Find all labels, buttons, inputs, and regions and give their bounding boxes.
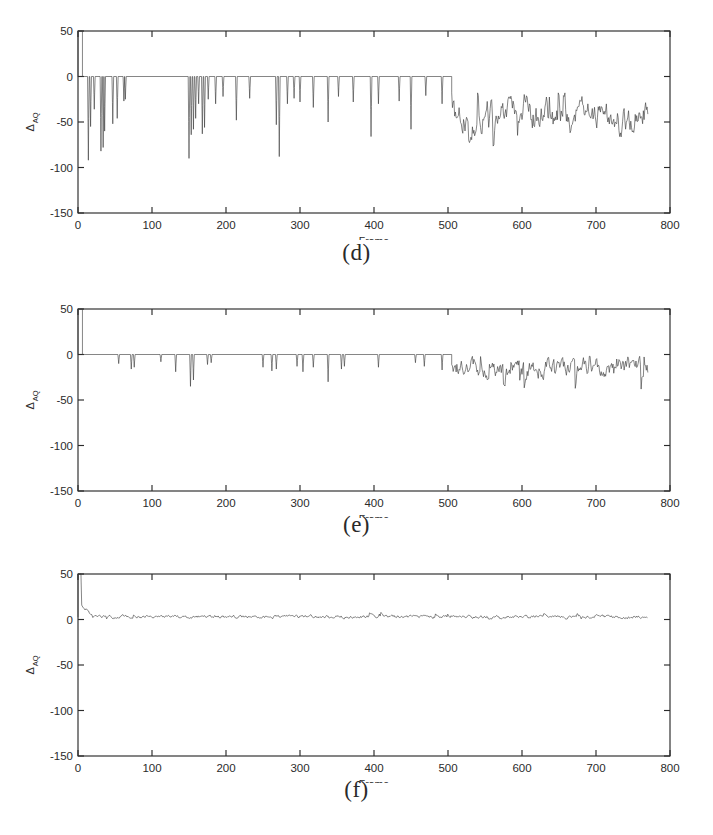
x-tick-label: 200 bbox=[216, 219, 235, 231]
plot-e-svg: 0100200300400500600700800500-50-100-150F… bbox=[0, 278, 713, 518]
x-tick-label: 700 bbox=[586, 497, 605, 509]
x-tick-label: 0 bbox=[75, 219, 81, 231]
y-tick-label: 0 bbox=[67, 71, 73, 83]
y-tick-label: -50 bbox=[56, 659, 73, 671]
y-tick-label: -50 bbox=[56, 394, 73, 406]
x-tick-label: 100 bbox=[142, 762, 161, 774]
x-tick-label: 0 bbox=[75, 497, 81, 509]
x-tick-label: 700 bbox=[586, 762, 605, 774]
x-tick-label: 400 bbox=[364, 497, 383, 509]
x-tick-label: 800 bbox=[660, 762, 679, 774]
y-axis-title: ΔAQ bbox=[24, 390, 40, 409]
data-series-line bbox=[78, 31, 648, 160]
x-tick-label: 300 bbox=[290, 219, 309, 231]
x-tick-label: 700 bbox=[586, 219, 605, 231]
data-series-line bbox=[78, 309, 648, 389]
svg-text:ΔAQ: ΔAQ bbox=[24, 655, 40, 674]
y-tick-label: -100 bbox=[50, 440, 73, 452]
y-tick-label: 50 bbox=[60, 568, 73, 580]
x-tick-label: 0 bbox=[75, 762, 81, 774]
y-tick-label: 50 bbox=[60, 303, 73, 315]
x-tick-label: 200 bbox=[216, 497, 235, 509]
x-tick-label: 800 bbox=[660, 219, 679, 231]
data-series-line bbox=[78, 574, 647, 619]
panel-caption-e: (e) bbox=[0, 512, 713, 538]
y-axis-title: ΔAQ bbox=[24, 112, 40, 131]
chart-panel-d: 0100200300400500600700800500-50-100-150F… bbox=[0, 0, 713, 278]
y-tick-label: -100 bbox=[50, 705, 73, 717]
x-tick-label: 500 bbox=[438, 497, 457, 509]
panel-caption-d: (d) bbox=[0, 240, 713, 266]
figure-container: 0100200300400500600700800500-50-100-150F… bbox=[0, 0, 713, 835]
x-tick-label: 400 bbox=[364, 219, 383, 231]
x-tick-label: 600 bbox=[512, 762, 531, 774]
x-tick-label: 600 bbox=[512, 219, 531, 231]
x-tick-label: 100 bbox=[142, 219, 161, 231]
y-tick-label: -150 bbox=[50, 207, 73, 219]
y-tick-label: -150 bbox=[50, 485, 73, 497]
y-tick-label: -100 bbox=[50, 162, 73, 174]
x-tick-label: 300 bbox=[290, 497, 309, 509]
y-tick-label: -150 bbox=[50, 750, 73, 762]
x-tick-label: 400 bbox=[364, 762, 383, 774]
x-tick-label: 500 bbox=[438, 219, 457, 231]
x-tick-label: 800 bbox=[660, 497, 679, 509]
x-tick-label: 100 bbox=[142, 497, 161, 509]
y-tick-label: 0 bbox=[67, 614, 73, 626]
x-tick-label: 200 bbox=[216, 762, 235, 774]
y-tick-label: 0 bbox=[67, 349, 73, 361]
x-tick-label: 500 bbox=[438, 762, 457, 774]
svg-text:ΔAQ: ΔAQ bbox=[24, 390, 40, 409]
y-tick-label: 50 bbox=[60, 25, 73, 37]
y-tick-label: -50 bbox=[56, 116, 73, 128]
y-axis-title: ΔAQ bbox=[24, 655, 40, 674]
x-tick-label: 600 bbox=[512, 497, 531, 509]
svg-text:ΔAQ: ΔAQ bbox=[24, 112, 40, 131]
plot-d-svg: 0100200300400500600700800500-50-100-150F… bbox=[0, 0, 713, 240]
plot-f-svg: 0100200300400500600700800500-50-100-150F… bbox=[0, 543, 713, 783]
panel-caption-f: (f) bbox=[0, 777, 713, 803]
x-tick-label: 300 bbox=[290, 762, 309, 774]
